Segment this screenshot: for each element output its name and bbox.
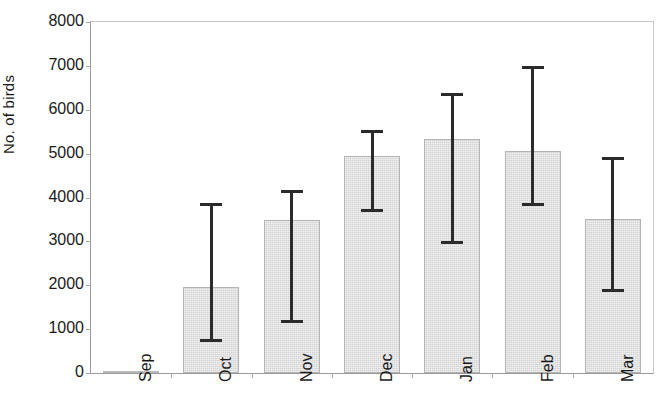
x-axis-tick-labels: SepOctNovDecJanFebMar [90, 374, 652, 418]
y-axis-tick-mark [86, 22, 91, 23]
error-bar [371, 132, 374, 211]
error-bar-cap-upper [361, 130, 383, 133]
error-bar [210, 205, 213, 341]
error-bar-cap-lower [361, 209, 383, 212]
y-axis-tick-label: 4000 [30, 189, 84, 205]
y-axis-tick-label: 2000 [30, 276, 84, 292]
error-bar [290, 192, 293, 322]
plot-area [90, 21, 654, 374]
error-bar-cap-lower [602, 289, 624, 292]
y-axis-tick-label: 3000 [30, 232, 84, 248]
error-bar-cap-lower [441, 241, 463, 244]
x-axis-tick-label: Sep [138, 354, 154, 382]
y-axis-tick-label: 1000 [30, 320, 84, 336]
bar-chart: No. of birds 010002000300040005000600070… [0, 0, 658, 418]
y-axis-tick-mark [86, 110, 91, 111]
error-bar-cap-lower [200, 339, 222, 342]
y-axis-tick-mark [86, 198, 91, 199]
y-axis-tick-label: 0 [30, 364, 84, 380]
x-axis-tick-label: Oct [218, 357, 234, 382]
y-axis-tick-mark [86, 241, 91, 242]
x-axis-tick-label: Nov [299, 354, 315, 382]
error-bar-cap-upper [281, 190, 303, 193]
error-bar [451, 94, 454, 242]
error-bar [611, 158, 614, 290]
error-bar-cap-lower [522, 203, 544, 206]
y-axis-title: No. of birds [0, 14, 24, 154]
error-bar [531, 67, 534, 204]
y-axis-tick-mark [86, 154, 91, 155]
x-axis-tick-label: Mar [620, 354, 636, 382]
x-axis-tick-label: Jan [459, 356, 475, 382]
x-axis-tick-label: Dec [379, 354, 395, 382]
y-axis-tick-mark [86, 329, 91, 330]
y-axis-tick-mark [86, 285, 91, 286]
error-bar-cap-upper [602, 157, 624, 160]
y-axis-tick-label: 6000 [30, 101, 84, 117]
x-axis-tick-label: Feb [540, 354, 556, 382]
error-bar-cap-upper [522, 66, 544, 69]
y-axis-tick-label: 7000 [30, 57, 84, 73]
error-bar-cap-lower [281, 320, 303, 323]
y-axis-tick-mark [86, 66, 91, 67]
y-axis-tick-label: 8000 [30, 13, 84, 29]
error-bar-cap-upper [441, 93, 463, 96]
y-axis-tick-label: 5000 [30, 145, 84, 161]
y-axis-tick-labels: 010002000300040005000600070008000 [28, 0, 84, 418]
error-bar-cap-upper [200, 203, 222, 206]
